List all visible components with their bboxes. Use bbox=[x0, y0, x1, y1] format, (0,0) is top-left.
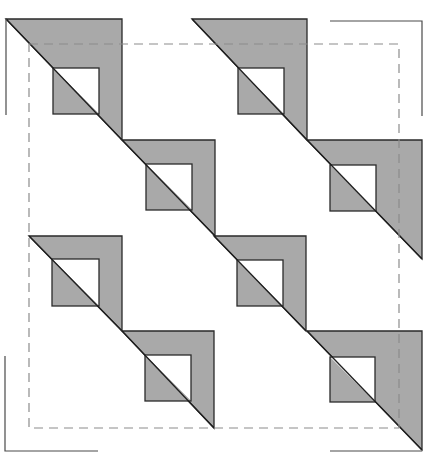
triangle-unit bbox=[6, 19, 122, 140]
triangle-unit bbox=[307, 140, 422, 259]
crop-mark-bottom-left bbox=[5, 356, 98, 451]
triangle-unit bbox=[29, 236, 122, 331]
triangle-unit bbox=[192, 19, 307, 140]
triangle-unit bbox=[122, 331, 214, 428]
crop-mark-top-right bbox=[330, 21, 422, 116]
triangle-units bbox=[6, 19, 422, 450]
triangle-unit bbox=[122, 140, 215, 236]
triangle-unit bbox=[214, 236, 306, 331]
triangle-unit bbox=[307, 331, 422, 450]
quilt-diagram bbox=[0, 0, 445, 470]
